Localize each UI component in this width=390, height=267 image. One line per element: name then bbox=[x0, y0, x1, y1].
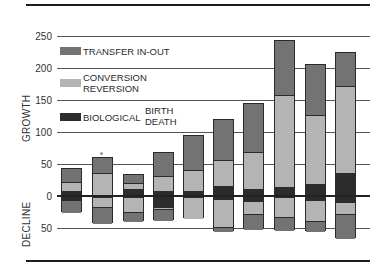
legend-swatch-biological bbox=[60, 113, 81, 121]
bar-segment bbox=[184, 170, 203, 190]
zero-line bbox=[57, 195, 370, 197]
bar-segment bbox=[62, 200, 81, 213]
gridline-250 bbox=[57, 36, 370, 37]
bar-segment bbox=[244, 214, 263, 229]
bar-segment bbox=[336, 214, 355, 239]
bar-segment bbox=[306, 115, 325, 184]
legend-label-birth: BIRTH bbox=[145, 106, 173, 116]
tick-250: 250 bbox=[28, 32, 52, 42]
bar-segment bbox=[336, 173, 355, 197]
bar-segment bbox=[93, 207, 112, 224]
bar-8 bbox=[274, 40, 295, 230]
bar-segment bbox=[275, 41, 294, 95]
legend-label-conversion: CONVERSION bbox=[83, 73, 147, 83]
bar-segment bbox=[275, 197, 294, 217]
bar-segment bbox=[184, 136, 203, 171]
bar-segment bbox=[306, 65, 325, 116]
legend-label-death: DEATH bbox=[145, 117, 177, 127]
bar-9 bbox=[305, 64, 326, 232]
bar-segment bbox=[244, 201, 263, 214]
y-axis-label-growth: GROWTH bbox=[21, 95, 32, 142]
bar-segment bbox=[306, 200, 325, 220]
bar-segment bbox=[275, 95, 294, 188]
bar-segment bbox=[62, 182, 81, 191]
asterisk-marker bbox=[100, 152, 103, 155]
legend-swatch-transfer bbox=[60, 47, 81, 55]
bar-segment bbox=[184, 197, 203, 219]
legend-swatch-conversion bbox=[60, 79, 81, 87]
legend-label-biological: BIOLOGICAL bbox=[83, 113, 141, 123]
bar-segment bbox=[154, 197, 173, 207]
bar-segment bbox=[214, 120, 233, 160]
top-rule bbox=[26, 4, 370, 6]
bar-2 bbox=[92, 157, 113, 223]
bar-segment bbox=[214, 160, 233, 186]
tick-200: 200 bbox=[28, 64, 52, 74]
bar-segment bbox=[244, 152, 263, 189]
bar-segment bbox=[93, 158, 112, 173]
bar-segment bbox=[214, 227, 233, 232]
bar-segment bbox=[336, 202, 355, 214]
bar-7 bbox=[243, 103, 264, 228]
tick-50: 50 bbox=[28, 160, 52, 170]
bar-segment bbox=[214, 199, 233, 227]
legend-label-transfer: TRANSFER IN-OUT bbox=[83, 47, 170, 57]
bar-segment bbox=[306, 221, 325, 233]
bar-segment bbox=[336, 86, 355, 172]
bar-segment bbox=[154, 176, 173, 191]
bar-segment bbox=[154, 209, 173, 221]
bar-6 bbox=[213, 119, 234, 232]
bar-segment bbox=[244, 104, 263, 152]
bar-segment bbox=[124, 212, 143, 222]
bar-segment bbox=[62, 169, 81, 182]
bar-5 bbox=[183, 135, 204, 218]
y-axis-label-decline: DECLINE bbox=[21, 202, 32, 247]
bottom-rule bbox=[26, 260, 370, 262]
bar-segment bbox=[93, 173, 112, 197]
legend-label-reversion: REVERSION bbox=[83, 84, 139, 94]
bar-1 bbox=[61, 168, 82, 212]
bar-4 bbox=[153, 152, 174, 220]
bar-segment bbox=[124, 197, 143, 212]
tick-0: 0 bbox=[28, 192, 52, 202]
bar-segment bbox=[93, 197, 112, 207]
bar-segment bbox=[154, 153, 173, 176]
bar-10 bbox=[335, 52, 356, 238]
bar-segment bbox=[124, 175, 143, 183]
bar-segment bbox=[336, 53, 355, 86]
bar-segment bbox=[275, 217, 294, 230]
bar-3 bbox=[123, 174, 144, 221]
